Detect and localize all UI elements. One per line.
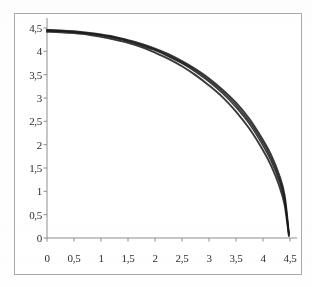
x-axis-tick-label: 0 (44, 252, 49, 264)
y-axis-tick-label: 4,5 (16, 22, 42, 34)
x-axis-tick-label: 3 (206, 252, 211, 264)
curve-layer (47, 30, 289, 236)
data-curve (47, 32, 289, 236)
y-axis-tick-label: 2 (16, 139, 42, 151)
y-axis-tick-label: 0,5 (16, 209, 42, 221)
x-axis-tick-label: 1,5 (122, 252, 135, 264)
x-axis-tick-label: 2,5 (176, 252, 189, 264)
y-axis-tick-label: 0 (16, 232, 42, 244)
x-axis-tick-label: 0,5 (68, 252, 81, 264)
axis-layer (44, 18, 298, 242)
y-axis-tick-label: 3,5 (16, 69, 42, 81)
x-axis-tick-label: 4,5 (284, 252, 297, 264)
y-axis-tick-label: 1 (16, 185, 42, 197)
x-axis-tick-label: 2 (152, 252, 157, 264)
x-axis-tick-label: 1 (98, 252, 103, 264)
x-axis-tick-label: 4 (260, 252, 265, 264)
x-axis-tick-label: 3,5 (230, 252, 243, 264)
y-axis-tick-label: 2,5 (16, 115, 42, 127)
chart-canvas (0, 0, 312, 287)
y-axis-tick-label: 1,5 (16, 162, 42, 174)
data-curve (47, 30, 289, 233)
y-axis-tick-label: 4 (16, 45, 42, 57)
chart-figure: 00,511,522,533,544,5 00,511,522,533,544,… (0, 0, 312, 287)
y-axis-tick-label: 3 (16, 92, 42, 104)
